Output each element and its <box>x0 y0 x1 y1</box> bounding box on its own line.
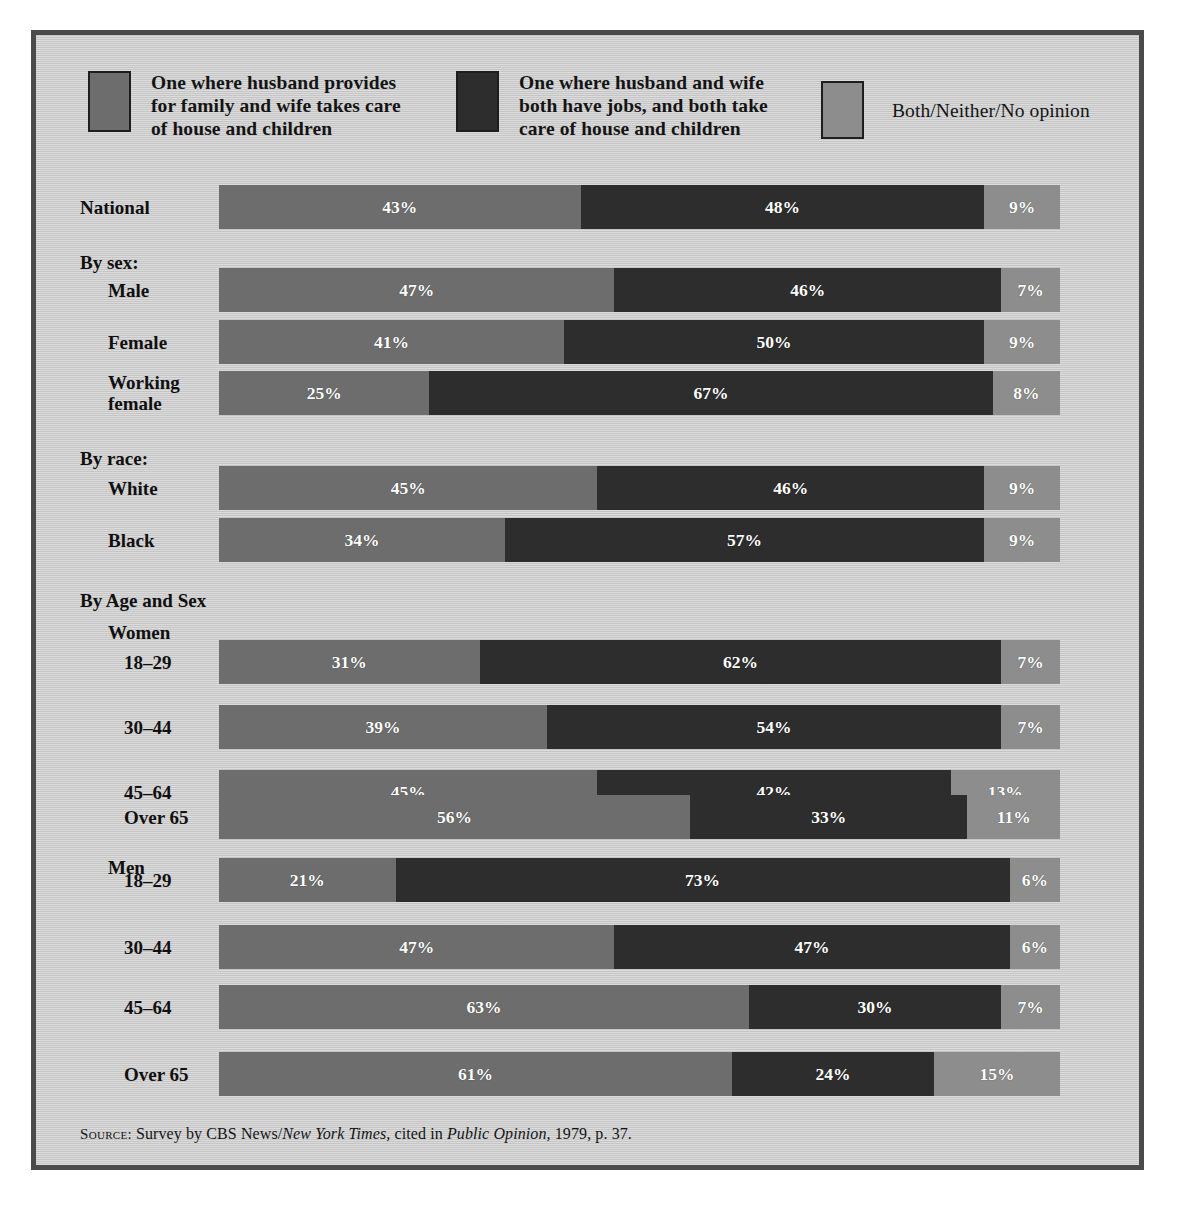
bar-segment-value: 34% <box>344 530 379 551</box>
stacked-bar: 21%73%6% <box>219 858 1060 902</box>
bar-segment-value: 6% <box>1022 870 1048 891</box>
stacked-bar: 47%46%7% <box>219 268 1060 312</box>
bar-segment-1: 24% <box>732 1052 934 1096</box>
bar-segment-1: 47% <box>614 925 1009 969</box>
chart-row: National43%48%9% <box>36 185 1139 229</box>
bar-segment-0: 43% <box>219 185 581 229</box>
bar-segment-value: 61% <box>458 1064 493 1085</box>
bar-segment-0: 41% <box>219 320 564 364</box>
bar-segment-0: 39% <box>219 705 547 749</box>
bar-segment-value: 48% <box>765 197 800 218</box>
bar-segment-value: 43% <box>382 197 417 218</box>
bar-segment-value: 63% <box>466 997 501 1018</box>
legend-label-both-have-jobs: One where husband and wife both have job… <box>519 71 768 140</box>
chart-legend: One where husband provides for family an… <box>36 63 1139 163</box>
bar-segment-2: 15% <box>934 1052 1060 1096</box>
bar-segment-value: 9% <box>1009 530 1035 551</box>
stacked-bar: 47%47%6% <box>219 925 1060 969</box>
bar-segment-value: 57% <box>727 530 762 551</box>
legend-item-both-have-jobs: One where husband and wife both have job… <box>456 71 768 140</box>
bar-segment-value: 9% <box>1009 478 1035 499</box>
chart-row: Over 6561%24%15% <box>36 1052 1139 1096</box>
stacked-bar: 25%67%8% <box>219 371 1060 415</box>
source-text-1: Survey by CBS News/ <box>132 1125 282 1142</box>
bar-segment-value: 25% <box>307 383 342 404</box>
bar-segment-value: 33% <box>811 807 846 828</box>
legend-swatch-both-neither-no-opinion <box>821 81 864 139</box>
bar-segment-1: 30% <box>749 985 1001 1029</box>
bar-segment-value: 21% <box>290 870 325 891</box>
bar-segment-value: 31% <box>332 652 367 673</box>
bar-segment-2: 7% <box>1001 268 1060 312</box>
bar-segment-1: 54% <box>547 705 1001 749</box>
legend-swatch-husband-provides <box>88 71 131 132</box>
stacked-bar: 31%62%7% <box>219 640 1060 684</box>
stacked-bar: 56%33%11% <box>219 795 1060 839</box>
bar-segment-1: 48% <box>581 185 985 229</box>
bar-segment-value: 7% <box>1017 652 1043 673</box>
bar-segment-value: 73% <box>685 870 720 891</box>
bar-segment-value: 41% <box>374 332 409 353</box>
bar-segment-value: 47% <box>399 280 434 301</box>
source-note: Source: Survey by CBS News/New York Time… <box>80 1125 632 1143</box>
bar-segment-2: 6% <box>1010 925 1060 969</box>
legend-label-husband-provides: One where husband provides for family an… <box>151 71 401 140</box>
bar-segment-0: 63% <box>219 985 749 1029</box>
bar-segment-0: 47% <box>219 925 614 969</box>
bar-segment-0: 61% <box>219 1052 732 1096</box>
chart-row: Male47%46%7% <box>36 268 1139 312</box>
bar-segment-value: 11% <box>997 807 1031 828</box>
bar-segment-value: 30% <box>857 997 892 1018</box>
bar-segment-0: 45% <box>219 466 597 510</box>
bar-segment-0: 31% <box>219 640 480 684</box>
stacked-bar: 41%50%9% <box>219 320 1060 364</box>
bar-segment-value: 6% <box>1022 937 1048 958</box>
bar-segment-2: 9% <box>984 185 1060 229</box>
bar-segment-0: 34% <box>219 518 505 562</box>
source-italic-1: New York Times, <box>282 1125 390 1142</box>
bar-segment-0: 25% <box>219 371 429 415</box>
stacked-bar: 45%46%9% <box>219 466 1060 510</box>
bar-segment-1: 73% <box>396 858 1010 902</box>
bar-segment-value: 46% <box>773 478 808 499</box>
chart-row: White45%46%9% <box>36 466 1139 510</box>
bar-segment-1: 46% <box>614 268 1001 312</box>
bar-segment-value: 46% <box>790 280 825 301</box>
bar-segment-2: 7% <box>1001 985 1060 1029</box>
source-italic-2: Public Opinion, <box>447 1125 551 1142</box>
bar-segment-2: 11% <box>967 795 1060 839</box>
chart-row: Black34%57%9% <box>36 518 1139 562</box>
bar-segment-value: 9% <box>1009 197 1035 218</box>
bar-segment-1: 46% <box>597 466 984 510</box>
figure-background: One where husband provides for family an… <box>36 35 1139 1165</box>
legend-item-both-neither-no-opinion: Both/Neither/No opinion <box>821 81 1090 139</box>
source-prefix: Source: <box>80 1126 132 1142</box>
bar-segment-2: 9% <box>984 320 1060 364</box>
bar-segment-2: 7% <box>1001 705 1060 749</box>
bar-segment-value: 7% <box>1017 717 1043 738</box>
bar-segment-1: 33% <box>690 795 968 839</box>
chart-row: 30–4439%54%7% <box>36 705 1139 749</box>
bar-segment-2: 6% <box>1010 858 1060 902</box>
bar-segment-value: 9% <box>1009 332 1035 353</box>
bar-segment-value: 8% <box>1013 383 1039 404</box>
bar-segment-value: 67% <box>693 383 728 404</box>
bar-segment-value: 7% <box>1017 997 1043 1018</box>
bar-segment-value: 54% <box>757 717 792 738</box>
bar-segment-value: 50% <box>757 332 792 353</box>
bar-segment-value: 39% <box>365 717 400 738</box>
stacked-bar: 61%24%15% <box>219 1052 1060 1096</box>
bar-segment-value: 24% <box>815 1064 850 1085</box>
stacked-bar: 43%48%9% <box>219 185 1060 229</box>
bar-segment-value: 15% <box>979 1064 1014 1085</box>
bar-segment-value: 56% <box>437 807 472 828</box>
chart-row: 18–2931%62%7% <box>36 640 1139 684</box>
figure-page: One where husband provides for family an… <box>0 0 1177 1216</box>
bar-segment-2: 8% <box>993 371 1060 415</box>
stacked-bar: 63%30%7% <box>219 985 1060 1029</box>
legend-swatch-both-have-jobs <box>456 71 499 132</box>
legend-item-husband-provides: One where husband provides for family an… <box>88 71 401 140</box>
chart-row: Working female25%67%8% <box>36 371 1139 415</box>
stacked-bar: 39%54%7% <box>219 705 1060 749</box>
bar-segment-0: 56% <box>219 795 690 839</box>
